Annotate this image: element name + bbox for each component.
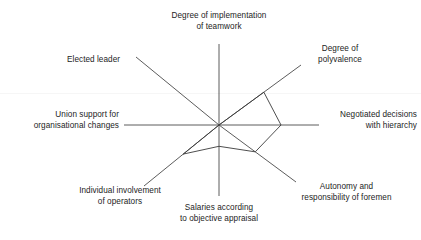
axis-label-individual-involvement-line2: of operators <box>58 197 182 208</box>
axis-label-teamwork-line1: Degree of implementation <box>148 11 290 22</box>
axis-label-teamwork: Degree of implementation of teamwork <box>148 11 290 32</box>
axis-label-teamwork-line2: of teamwork <box>148 22 290 33</box>
axis-label-elected-leader-line1: Elected leader <box>67 55 137 66</box>
radar-chart: Degree of implementation of teamwork Deg… <box>0 0 421 240</box>
axis-label-negotiated-decisions-line1: Negotiated decisions <box>312 110 417 121</box>
axis-label-union-support-line1: Union support for <box>7 110 119 121</box>
axis-label-polyvalence-line1: Degree of <box>303 44 377 55</box>
axis-label-autonomy-foremen-line2: responsibility of foremen <box>275 193 418 204</box>
axis-line-northwest <box>136 57 219 125</box>
axis-line-southeast <box>219 125 296 182</box>
radar-axes-group <box>124 44 319 196</box>
axis-label-polyvalence: Degree of polyvalence <box>303 44 377 65</box>
radar-data-group <box>183 92 281 154</box>
axis-label-union-support: Union support for organisational changes <box>7 110 119 131</box>
axis-label-individual-involvement: Individual involvement of operators <box>58 186 182 207</box>
axis-label-negotiated-decisions-line2: with hierarchy <box>312 121 417 132</box>
axis-label-salaries-line2: to objective appraisal <box>155 214 283 225</box>
data-series-polygon <box>183 92 281 154</box>
axis-label-elected-leader: Elected leader <box>67 55 137 66</box>
axis-label-autonomy-foremen-line1: Autonomy and <box>275 182 418 193</box>
axis-label-negotiated-decisions: Negotiated decisions with hierarchy <box>312 110 417 131</box>
axis-label-autonomy-foremen: Autonomy and responsibility of foremen <box>275 182 418 203</box>
axis-label-individual-involvement-line1: Individual involvement <box>58 186 182 197</box>
axis-label-polyvalence-line2: polyvalence <box>303 55 377 66</box>
axis-label-union-support-line2: organisational changes <box>7 121 119 132</box>
